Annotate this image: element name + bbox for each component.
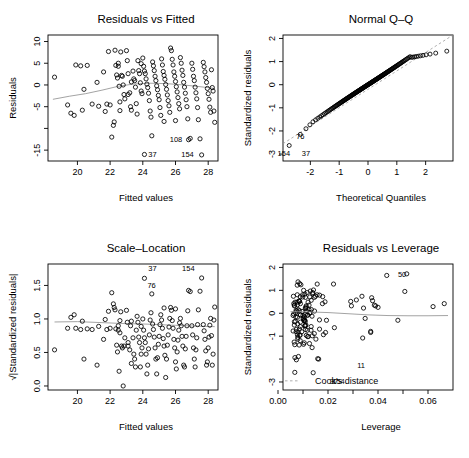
svg-text:-2: -2 [306,167,314,177]
svg-text:1.5: 1.5 [32,279,42,292]
svg-text:-5: -5 [32,103,42,111]
svg-text:0: 0 [32,82,42,87]
svg-text:0.04: 0.04 [369,396,387,406]
scale-location-svg: Scale–Location Fitted values √|Standardi… [0,229,234,458]
svg-text:-3: -3 [267,150,277,158]
svg-text:-2: -2 [267,127,277,135]
x-axis-label: Fitted values [119,192,173,203]
diagnostic-plot-figure: Residuals vs Fitted Fitted values Residu… [0,0,469,458]
svg-text:0.00: 0.00 [269,396,287,406]
svg-text:-1: -1 [267,104,277,112]
svg-text:-1: -1 [267,332,277,340]
svg-text:28: 28 [203,396,213,406]
svg-text:0.06: 0.06 [419,396,437,406]
svg-text:0: 0 [267,311,277,316]
panel-normal-qq: Normal Q–Q Theoretical Quantiles Standar… [235,0,469,229]
residuals-vs-fitted-svg: Residuals vs Fitted Fitted values Residu… [0,0,234,229]
svg-text:37: 37 [148,264,156,273]
svg-text:76: 76 [147,281,155,290]
svg-text:2: 2 [423,167,428,177]
normal-qq-svg: Normal Q–Q Theoretical Quantiles Standar… [235,0,469,229]
y-axis-label: Standardized residuals [242,278,253,375]
residuals-vs-leverage-svg: Residuals vs Leverage Leverage Standardi… [235,229,469,458]
chart-title: Residuals vs Leverage [323,242,439,254]
plot-area: 20222426281050-5-1537108154 [32,35,218,177]
svg-text:154: 154 [182,264,195,273]
svg-text:50: 50 [398,270,406,279]
svg-text:2: 2 [267,265,277,270]
svg-text:26: 26 [170,396,180,406]
svg-text:5: 5 [32,61,42,66]
svg-text:108: 108 [170,135,183,144]
plot-area: 20222426280.00.51.01.53715476 [32,264,218,406]
panel-residuals-vs-leverage: Residuals vs Leverage Leverage Standardi… [235,229,469,458]
svg-text:-1: -1 [335,167,343,177]
svg-text:1.0: 1.0 [32,313,42,326]
svg-text:-3: -3 [267,378,277,386]
svg-text:22: 22 [105,396,115,406]
chart-title: Scale–Location [107,242,186,254]
svg-text:0.5: 0.5 [32,346,42,359]
svg-text:1: 1 [267,59,277,64]
plot-area: 0.000.020.040.06210-1-3Cook's distance50… [267,264,453,406]
svg-text:24: 24 [138,167,148,177]
svg-text:37: 37 [148,150,156,159]
chart-title: Normal Q–Q [349,13,414,25]
svg-text:154: 154 [181,150,194,159]
svg-text:37: 37 [330,377,338,386]
svg-text:11: 11 [357,361,365,370]
svg-text:0: 0 [267,82,277,87]
svg-text:1: 1 [267,288,277,293]
panel-residuals-vs-fitted: Residuals vs Fitted Fitted values Residu… [0,0,234,229]
y-axis-label: √|Standardized residuals| [7,274,18,381]
y-axis-label: Standardized residuals [242,49,253,146]
panel-scale-location: Scale–Location Fitted values √|Standardi… [0,229,234,458]
svg-text:2: 2 [267,36,277,41]
svg-text:28: 28 [203,167,213,177]
svg-text:76: 76 [296,132,304,141]
chart-title: Residuals vs Fitted [97,13,194,25]
svg-text:1: 1 [394,167,399,177]
cooks-distance-legend: Cook's distance [315,376,378,386]
svg-text:0: 0 [365,167,370,177]
plot-area: -2-1012210-1-2-37615437 [267,35,453,177]
svg-text:0.0: 0.0 [32,380,42,393]
svg-text:20: 20 [72,167,82,177]
x-axis-label: Fitted values [119,421,173,432]
x-axis-label: Theoretical Quantiles [336,192,426,203]
svg-text:24: 24 [138,396,148,406]
svg-text:22: 22 [105,167,115,177]
svg-text:0.02: 0.02 [319,396,337,406]
svg-text:37: 37 [302,149,310,158]
svg-text:154: 154 [278,149,291,158]
x-axis-label: Leverage [361,421,401,432]
svg-text:26: 26 [170,167,180,177]
svg-text:-15: -15 [32,144,42,157]
y-axis-label: Residuals [7,77,18,119]
svg-text:20: 20 [72,396,82,406]
svg-text:10: 10 [32,37,42,47]
